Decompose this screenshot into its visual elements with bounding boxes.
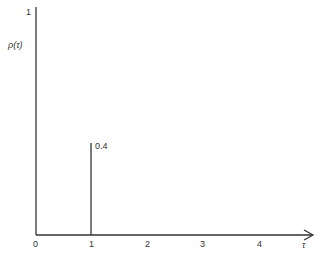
x-tick-0: 0 — [33, 240, 38, 249]
bar-value-label: 0.4 — [95, 142, 108, 151]
x-tick-4: 4 — [257, 240, 262, 249]
chart-canvas — [0, 0, 326, 253]
x-tick-1: 1 — [89, 240, 94, 249]
x-axis-label: τ — [302, 240, 305, 250]
x-tick-3: 3 — [200, 240, 205, 249]
autocorrelation-chart: 1 ρ(τ) 0.4 0 1 2 3 4 τ — [0, 0, 326, 253]
x-tick-2: 2 — [145, 240, 150, 249]
y-axis-label: ρ(τ) — [8, 40, 23, 50]
y-tick-1: 1 — [26, 8, 31, 17]
